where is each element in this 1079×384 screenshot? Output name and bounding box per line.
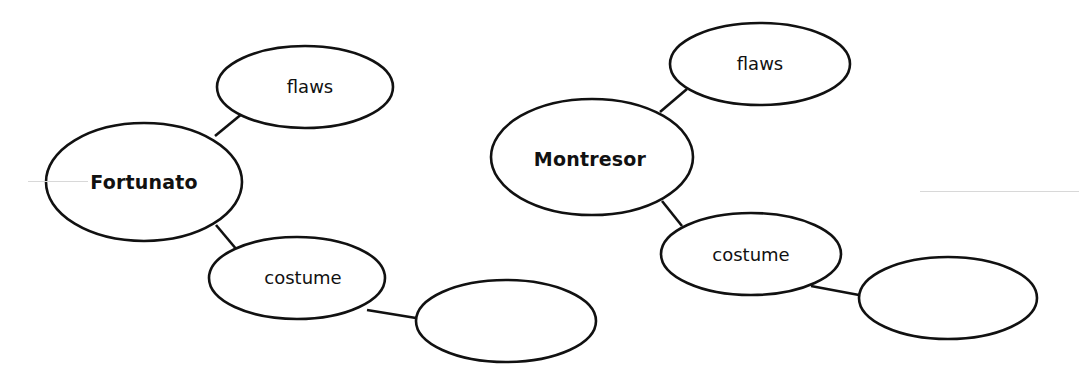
blank-node-left[interactable] — [416, 280, 596, 362]
connector-costume-blank-left — [367, 310, 416, 318]
character-web-diagram: Fortunato flaws costume Montresor flaws … — [0, 0, 1079, 384]
flaws-label-left: flaws — [287, 78, 333, 96]
connector-fortunato-costume — [216, 225, 237, 250]
connector-montresor-flaws — [660, 89, 687, 112]
connector-montresor-costume — [662, 201, 682, 226]
fortunato-label: Fortunato — [90, 173, 198, 192]
connector-costume-blank-right — [811, 286, 859, 295]
connector-fortunato-flaws — [215, 113, 243, 136]
montresor-label: Montresor — [534, 150, 646, 169]
scan-line-right — [920, 191, 1079, 192]
flaws-label-right: flaws — [737, 55, 783, 73]
scan-line-left — [28, 181, 88, 182]
blank-node-right[interactable] — [859, 257, 1037, 339]
costume-label-right: costume — [712, 246, 789, 264]
costume-label-left: costume — [264, 269, 341, 287]
